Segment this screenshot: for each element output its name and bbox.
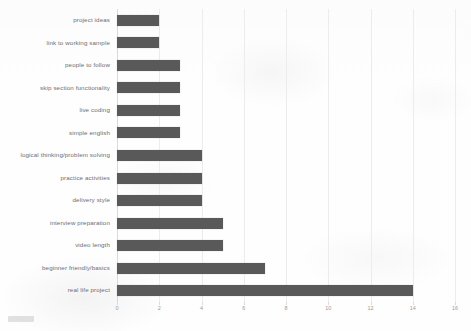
category-label: interview preparation [50,212,110,235]
bar-row [117,279,413,302]
category-label: delivery style [73,189,111,212]
bar-row [117,54,180,77]
bar-row [117,189,202,212]
x-tick-label: 10 [325,305,331,311]
category-label: people to follow [65,54,110,77]
x-tick-label: 4 [200,305,203,311]
category-label: simple english [69,122,110,145]
x-tick-label: 12 [368,305,374,311]
x-tick-label: 8 [285,305,288,311]
category-label: beginner friendly/basics [42,257,110,280]
bar-row [117,122,180,145]
category-label: real life project [68,279,110,302]
bar-row [117,99,180,122]
bar [117,60,180,71]
category-label: project ideas [73,9,110,32]
x-tick-label: 0 [116,305,119,311]
gridline-x [455,9,456,302]
bar [117,263,265,274]
bar-row [117,257,265,280]
bar-row [117,234,223,257]
scan-smudge [8,316,34,322]
bar [117,218,223,229]
x-tick-label: 2 [158,305,161,311]
bar [117,82,180,93]
bar-row [117,144,202,167]
category-label: logical thinking/problem solving [20,144,110,167]
bar [117,173,202,184]
x-tick-label: 16 [452,305,458,311]
bar [117,15,159,26]
bar-row [117,32,159,55]
plot-area [117,9,455,302]
bar [117,150,202,161]
bar-row [117,77,180,100]
category-label: live coding [79,99,110,122]
bar-row [117,212,223,235]
category-label: practice activities [61,167,110,190]
category-label: skip section functionality [40,77,110,100]
x-tick-label: 6 [242,305,245,311]
bar [117,195,202,206]
bar-chart: 0246810121416project ideaslink to workin… [0,0,471,331]
bar-row [117,167,202,190]
gridline-x [371,9,372,302]
category-label: video length [75,234,110,257]
x-tick-label: 14 [410,305,416,311]
bar [117,37,159,48]
gridline-x [413,9,414,302]
gridline-x [286,9,287,302]
bar [117,127,180,138]
gridline-x [328,9,329,302]
bar [117,285,413,296]
bar-row [117,9,159,32]
bar [117,240,223,251]
bar [117,105,180,116]
category-label: link to working sample [46,32,110,55]
